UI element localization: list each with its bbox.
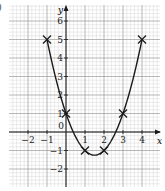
y-tick-label: 4 [57,53,63,63]
y-axis-label: y [57,5,64,15]
x-tick-label: 2 [101,135,107,145]
x-tick-label: −2 [21,135,34,145]
x-tick-label: −1 [40,135,53,145]
parabola-chart: −2−101234−2−1123456 x y [0,0,165,191]
y-tick-label: 5 [57,35,63,45]
y-tick-label: 3 [57,72,63,82]
y-tick-label: −1 [50,146,63,156]
x-tick-label: 3 [120,135,126,145]
x-tick-label: 1 [82,135,88,145]
minor-grid [9,5,160,187]
x-tick-label: 0 [58,121,64,131]
x-axis-label: x [157,136,162,146]
x-tick-label: 4 [139,135,145,145]
y-tick-label: 6 [57,16,63,26]
y-tick-label: −2 [50,164,63,174]
